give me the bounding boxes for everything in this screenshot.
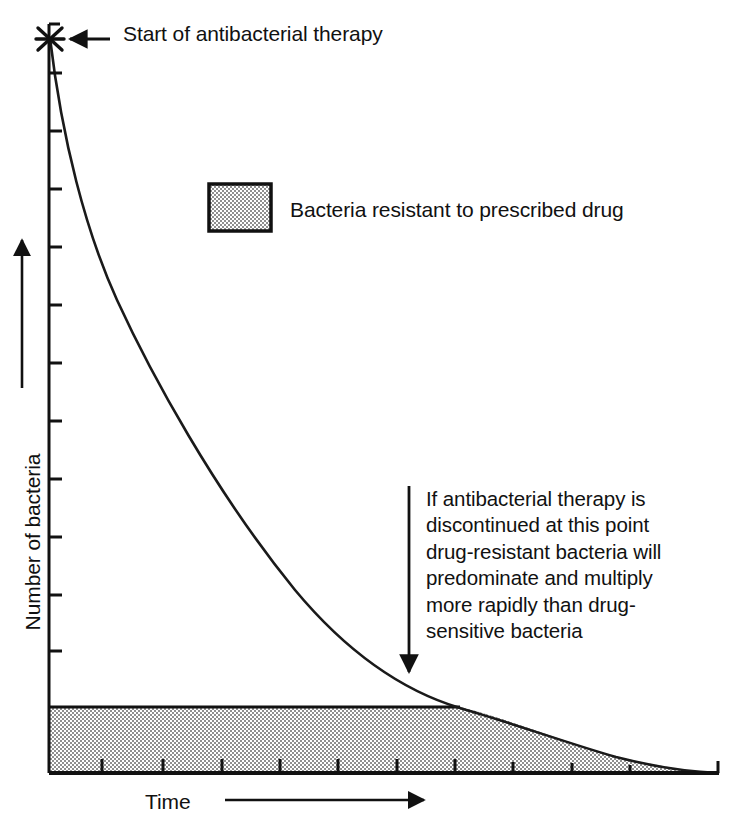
band-fill <box>49 705 719 775</box>
chart-canvas <box>0 0 737 820</box>
bacteria-decay-figure: Start of antibacterial therapy Bacteria … <box>0 0 737 820</box>
axes-group <box>49 24 719 773</box>
legend-label: Bacteria resistant to prescribed drug <box>290 198 624 222</box>
decay-curve <box>50 38 718 773</box>
y-axis-ticks <box>49 73 62 651</box>
resistant-bacteria-band <box>49 705 719 775</box>
start-therapy-label: Start of antibacterial therapy <box>123 22 383 46</box>
y-axis-label: Number of bacteria <box>21 442 45 642</box>
legend-swatch-box <box>209 184 271 231</box>
discontinue-annotation: If antibacterial therapy is discontinued… <box>426 486 661 644</box>
legend-swatch <box>209 184 271 231</box>
x-axis-label: Time <box>145 790 191 814</box>
